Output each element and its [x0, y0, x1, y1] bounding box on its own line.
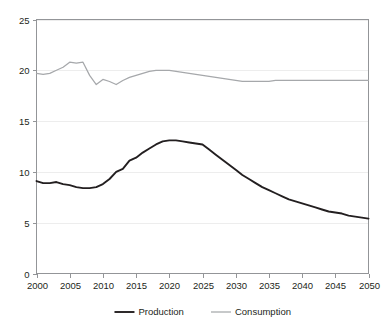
x-tick-label-2035: 2035	[259, 280, 280, 291]
y-tick-label-20: 20	[19, 65, 30, 76]
x-axis-ticks	[38, 274, 370, 278]
x-tick-label-2050: 2050	[359, 280, 380, 291]
plot-border	[37, 20, 369, 274]
x-tick-label-2040: 2040	[292, 280, 313, 291]
data-series	[37, 62, 369, 218]
y-tick-label-0: 0	[24, 269, 29, 280]
y-tick-label-10: 10	[19, 167, 30, 178]
x-tick-label-2045: 2045	[325, 280, 346, 291]
plot-frame	[37, 20, 369, 274]
x-tick-label-2025: 2025	[193, 280, 214, 291]
legend-label-production: Production	[138, 306, 183, 317]
x-tick-label-2020: 2020	[159, 280, 180, 291]
chart-container: 0510152025 20002005201020152020202520302…	[0, 0, 387, 332]
legend-item-consumption[interactable]: Consumption	[211, 306, 291, 317]
series-line-consumption	[37, 62, 369, 84]
y-axis-ticks	[33, 21, 37, 275]
y-axis-tick-labels: 0510152025	[19, 15, 30, 280]
x-tick-label-2015: 2015	[126, 280, 147, 291]
x-tick-label-2005: 2005	[60, 280, 81, 291]
x-tick-label-2000: 2000	[27, 280, 48, 291]
legend-label-consumption: Consumption	[235, 306, 291, 317]
x-axis-tick-labels: 2000200520102015202020252030203520402045…	[27, 280, 380, 291]
gridlines	[37, 21, 369, 224]
y-tick-label-5: 5	[24, 218, 29, 229]
legend-item-production[interactable]: Production	[114, 306, 183, 317]
y-tick-label-25: 25	[19, 15, 30, 26]
line-chart: 0510152025 20002005201020152020202520302…	[0, 0, 387, 332]
x-tick-label-2030: 2030	[226, 280, 247, 291]
chart-legend: ProductionConsumption	[114, 306, 290, 317]
series-line-production	[37, 140, 369, 218]
y-tick-label-15: 15	[19, 116, 30, 127]
x-tick-label-2010: 2010	[93, 280, 114, 291]
